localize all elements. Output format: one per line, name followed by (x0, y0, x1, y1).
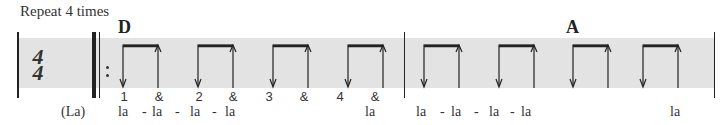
count-4: 4 (336, 89, 343, 104)
strum-arrows (0, 0, 724, 125)
strum-group-a-1 (421, 45, 462, 88)
lyric-m2-dash-1: - (440, 104, 445, 120)
lyric-m1-dash-1: - (142, 104, 147, 120)
count-3: 3 (265, 89, 272, 104)
strum-group-d-4 (345, 45, 386, 88)
strum-group-a-4 (640, 45, 681, 88)
strum-group-d-1 (120, 45, 161, 88)
lyric-m2-5: la (670, 104, 680, 120)
lyric-m2-1: la (416, 104, 426, 120)
lyric-m1-3: la (190, 104, 200, 120)
lyric-m1-4: la (225, 104, 235, 120)
count-and-2: & (229, 89, 238, 104)
lyric-m2-2: la (451, 104, 461, 120)
lyric-m1-dash-2: - (175, 104, 180, 120)
pickup-lyric: (La) (61, 104, 85, 120)
lyric-m1-1: la (118, 104, 128, 120)
strum-group-d-2 (195, 45, 236, 88)
lyric-m2-dash-3: - (510, 104, 515, 120)
lyric-m2-dash-2: - (474, 104, 479, 120)
lyric-m2-3: la (489, 104, 499, 120)
lyric-m1-2: la (152, 104, 162, 120)
lyric-m2-4: la (521, 104, 531, 120)
count-and-4: & (371, 89, 380, 104)
strum-group-a-3 (570, 45, 611, 88)
strum-group-d-3 (270, 45, 311, 88)
count-and-1: & (155, 89, 164, 104)
count-and-3: & (300, 89, 309, 104)
lyric-m1-5: la (365, 104, 375, 120)
count-2: 2 (195, 89, 202, 104)
strum-group-a-2 (496, 45, 537, 88)
lyric-m1-dash-3: - (212, 104, 217, 120)
count-1: 1 (120, 89, 127, 104)
